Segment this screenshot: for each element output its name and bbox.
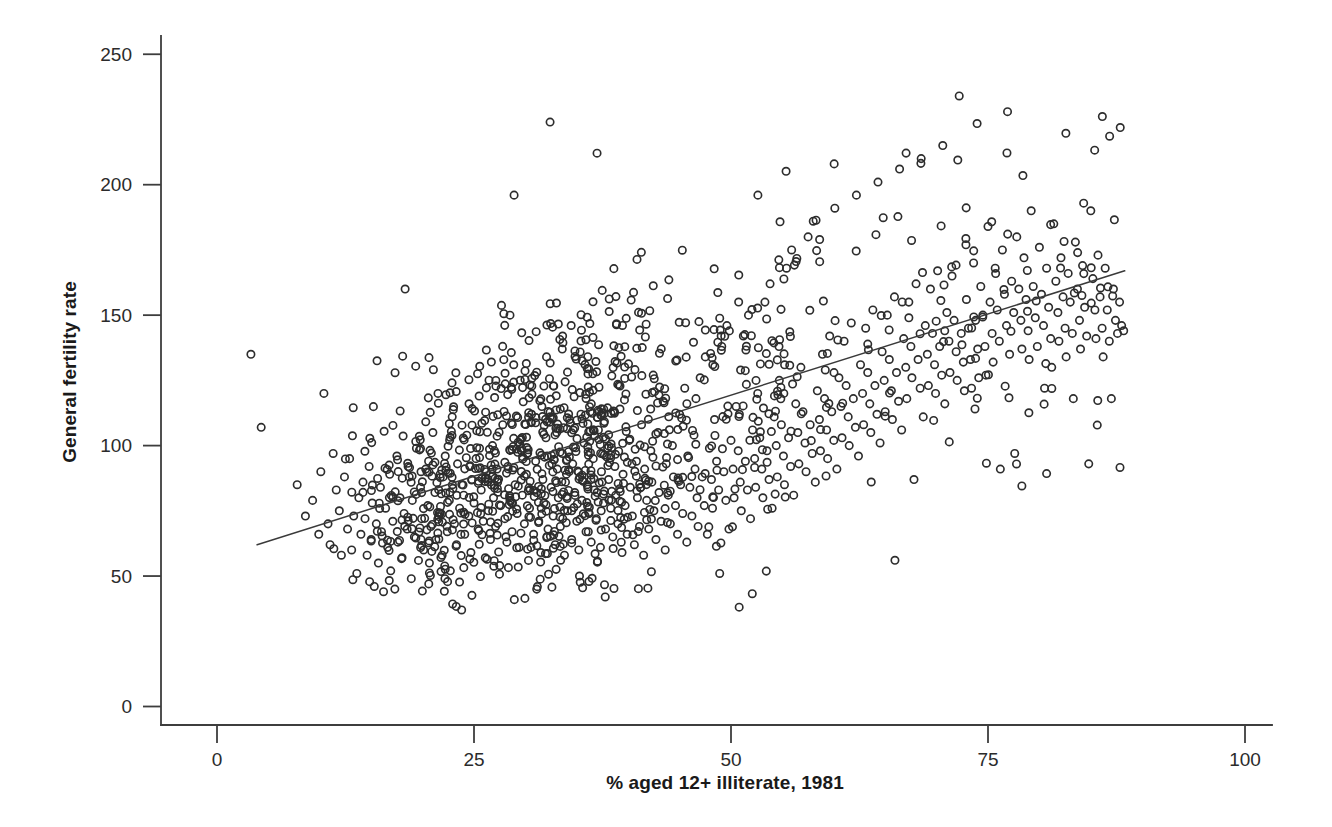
data-point <box>866 400 873 407</box>
data-point <box>724 402 731 409</box>
data-point <box>488 358 495 365</box>
data-point <box>599 287 606 294</box>
data-point <box>1074 249 1081 256</box>
data-point <box>893 369 900 376</box>
data-point <box>802 468 809 475</box>
data-point <box>380 428 387 435</box>
data-point <box>465 376 472 383</box>
data-point <box>646 307 653 314</box>
data-point <box>587 538 594 545</box>
data-point <box>578 327 585 334</box>
x-tick-label: 0 <box>212 749 223 770</box>
data-point <box>491 394 498 401</box>
data-point <box>817 447 824 454</box>
data-point <box>759 446 766 453</box>
data-point <box>569 386 576 393</box>
x-axis-ticks: 0255075100 <box>212 725 1261 770</box>
data-point <box>460 564 467 571</box>
data-point <box>589 334 596 341</box>
data-point <box>496 570 503 577</box>
data-point <box>619 471 626 478</box>
data-point <box>1087 207 1094 214</box>
data-point <box>672 502 679 509</box>
data-point <box>830 160 837 167</box>
data-point <box>992 270 999 277</box>
data-point <box>714 289 721 296</box>
data-point <box>610 265 617 272</box>
data-point <box>1080 270 1087 277</box>
data-point <box>577 337 584 344</box>
data-point <box>735 447 742 454</box>
data-point <box>830 437 837 444</box>
data-point <box>816 236 823 243</box>
data-point <box>338 551 345 558</box>
data-point <box>690 339 697 346</box>
data-point <box>880 377 887 384</box>
data-point <box>864 369 871 376</box>
data-point <box>824 350 831 357</box>
data-point <box>844 413 851 420</box>
data-point <box>1043 470 1050 477</box>
data-point <box>1043 264 1050 271</box>
data-point <box>774 356 781 363</box>
data-point <box>971 405 978 412</box>
data-point <box>896 165 903 172</box>
data-point <box>932 317 939 324</box>
data-point <box>943 309 950 316</box>
data-point <box>501 322 508 329</box>
data-point <box>1005 394 1012 401</box>
data-point <box>1062 353 1069 360</box>
data-point <box>499 343 506 350</box>
data-point <box>696 486 703 493</box>
data-point <box>735 603 742 610</box>
data-point <box>852 247 859 254</box>
data-point <box>751 464 758 471</box>
data-point <box>868 478 875 485</box>
data-point <box>816 416 823 423</box>
data-point <box>751 455 758 462</box>
data-point <box>434 390 441 397</box>
data-point <box>662 546 669 553</box>
data-point <box>872 231 879 238</box>
data-point <box>816 258 823 265</box>
data-point <box>630 289 637 296</box>
data-point <box>1008 278 1015 285</box>
data-point <box>757 360 764 367</box>
data-point <box>878 348 885 355</box>
data-point <box>1111 216 1118 223</box>
data-point <box>975 374 982 381</box>
data-point <box>387 567 394 574</box>
data-point <box>635 585 642 592</box>
data-point <box>682 353 689 360</box>
data-point <box>755 344 762 351</box>
data-point <box>983 459 990 466</box>
data-point <box>1101 264 1108 271</box>
data-point <box>482 408 489 415</box>
data-point <box>691 465 698 472</box>
data-point <box>761 298 768 305</box>
data-point <box>649 437 656 444</box>
data-point <box>366 578 373 585</box>
data-point <box>773 442 780 449</box>
data-point <box>1092 335 1099 342</box>
data-point <box>1067 298 1074 305</box>
data-point <box>1078 292 1085 299</box>
data-point <box>592 358 599 365</box>
data-point <box>380 588 387 595</box>
data-point <box>939 142 946 149</box>
data-point <box>521 520 528 527</box>
data-point <box>763 350 770 357</box>
data-point <box>365 463 372 470</box>
data-point <box>598 468 605 475</box>
data-point <box>606 308 613 315</box>
data-point <box>389 518 396 525</box>
data-point <box>771 490 778 497</box>
data-point <box>999 246 1006 253</box>
data-point <box>1117 124 1124 131</box>
data-point <box>804 233 811 240</box>
x-tick-label: 100 <box>1229 749 1261 770</box>
data-point <box>480 518 487 525</box>
data-point <box>489 413 496 420</box>
data-point <box>349 576 356 583</box>
data-point <box>842 382 849 389</box>
